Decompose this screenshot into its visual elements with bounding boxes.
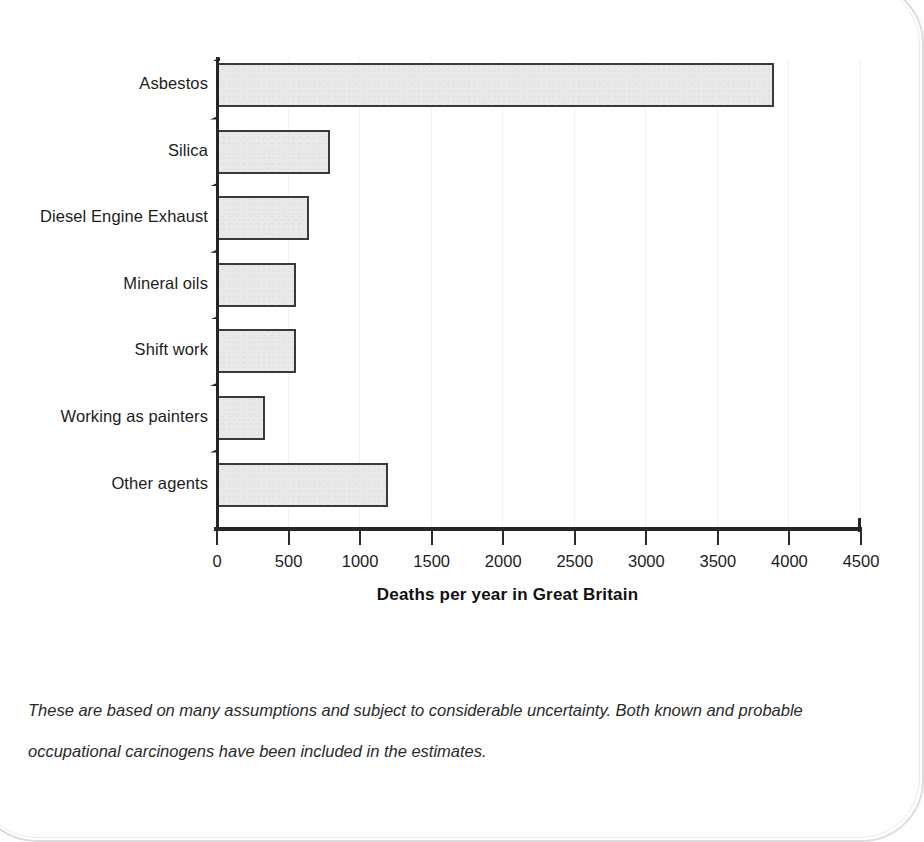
value-tick xyxy=(431,531,433,545)
value-tick-label: 2500 xyxy=(540,552,610,571)
bar xyxy=(216,63,774,107)
value-tick xyxy=(359,531,361,545)
caption-line-1: These are based on many assumptions and … xyxy=(28,690,858,731)
category-axis-end-cap xyxy=(858,518,861,532)
value-tick xyxy=(645,531,647,545)
gridline xyxy=(860,60,861,527)
category-label: Diesel Engine Exhaust xyxy=(3,207,208,226)
value-tick-label: 1000 xyxy=(325,552,395,571)
bar xyxy=(216,329,296,373)
value-tick-label: 500 xyxy=(254,552,324,571)
category-axis-line xyxy=(214,527,862,531)
category-label: Silica xyxy=(3,141,208,160)
figure-caption: These are based on many assumptions and … xyxy=(28,690,858,772)
bar xyxy=(216,463,388,507)
value-tick xyxy=(717,531,719,545)
value-tick-label: 3500 xyxy=(683,552,753,571)
category-label: Mineral oils xyxy=(3,274,208,293)
caption-line-2: occupational carcinogens have been inclu… xyxy=(28,731,858,772)
value-tick-label: 1500 xyxy=(397,552,467,571)
value-tick xyxy=(788,531,790,545)
value-tick-label: 4500 xyxy=(826,552,896,571)
bars-layer xyxy=(216,60,860,527)
category-axis-labels: AsbestosSilicaDiesel Engine ExhaustMiner… xyxy=(0,0,208,527)
category-label: Asbestos xyxy=(3,74,208,93)
value-axis-line xyxy=(216,57,219,529)
value-tick-label: 3000 xyxy=(611,552,681,571)
value-tick xyxy=(288,531,290,545)
category-label: Shift work xyxy=(3,340,208,359)
value-tick-label: 4000 xyxy=(754,552,824,571)
value-tick xyxy=(574,531,576,545)
bar-chart-figure: AsbestosSilicaDiesel Engine ExhaustMiner… xyxy=(0,0,897,660)
value-tick xyxy=(860,531,862,545)
value-tick xyxy=(216,531,218,545)
bar xyxy=(216,396,265,440)
x-axis-title: Deaths per year in Great Britain xyxy=(0,585,897,605)
bar xyxy=(216,196,309,240)
x-axis-title-text: Deaths per year in Great Britain xyxy=(377,585,639,605)
value-tick-label: 2000 xyxy=(468,552,538,571)
category-label: Other agents xyxy=(3,474,208,493)
bar xyxy=(216,130,330,174)
category-label: Working as painters xyxy=(3,407,208,426)
value-tick xyxy=(502,531,504,545)
value-tick-label: 0 xyxy=(182,552,252,571)
bar xyxy=(216,263,296,307)
